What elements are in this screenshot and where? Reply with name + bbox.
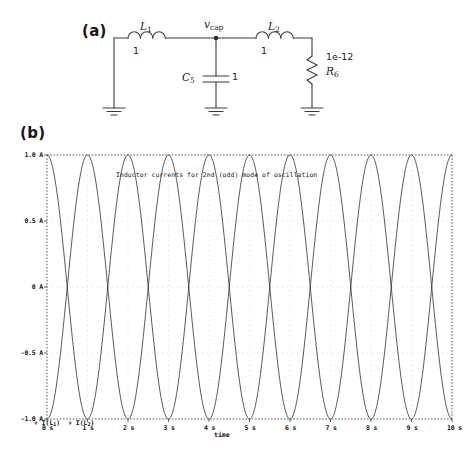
y-tick-label: 0 A [4,283,43,291]
inductor-l2-coil-3 [281,32,293,38]
legend-item-I(L1): + I(L1) [34,419,60,427]
figure-container: (a) [0,0,471,450]
capacitor-c5-subscript: 5 [190,76,195,85]
node-dot-vcap [214,36,219,41]
x-tick-label: 10 s [447,424,462,432]
inductor-l2-value: 1 [261,45,267,56]
inductor-l2-label: L2 [268,20,280,34]
y-tick-label: 0.5 A [4,217,43,225]
plot-legend: + I(L1)+ I(L2) [34,419,102,427]
plot-annotation: Inductor currents for 2nd (odd) mode of … [116,171,317,179]
waveform-plot: -1.0 A-0.5 A0 A0.5 A1.0 A 0 s1 s2 s3 s4 … [0,132,471,450]
ground-symbol-left [103,108,125,115]
legend-label: I(L [76,419,88,427]
inductor-l1-subscript: 1 [147,25,152,34]
x-tick-label: 2 s [123,424,134,432]
y-tick-label: 1.0 A [4,151,43,159]
x-tick-label: 9 s [407,424,418,432]
plot-svg [0,132,471,450]
legend-marker-icon: + [68,419,76,427]
inductor-l1-label: L1 [140,20,152,34]
x-tick-label: 5 s [245,424,256,432]
ground-symbol-right [301,108,323,115]
inductor-l2-subscript: 2 [275,25,280,34]
x-axis-label: time [214,431,230,439]
y-tick-label: -0.5 A [4,349,43,357]
capacitor-c5-label: C5 [182,71,195,85]
legend-marker-icon: + [34,419,42,427]
x-tick-label: 6 s [285,424,296,432]
node-label-vcap: vcap [204,18,223,32]
series-curve-I(L2) [47,155,452,419]
inductor-l1-value: 1 [133,45,139,56]
resistor-r6-zigzag [307,56,317,84]
legend-label-close: ) [90,419,94,427]
resistor-r6-subscript: 6 [334,70,339,79]
circuit-svg [0,0,471,130]
x-tick-label: 3 s [164,424,175,432]
resistor-r6-value: 1e-12 [326,51,353,62]
inductor-l2-coil-1 [256,32,268,38]
legend-item-I(L2): + I(L2) [68,419,94,427]
ground-symbol-center [205,108,227,115]
legend-label: I(L [42,419,54,427]
capacitor-c5-value: 1 [232,71,238,82]
circuit-schematic: L1 1 L2 1 C5 1 1e-12 R6 vcap [0,0,471,130]
plot-curves [47,155,452,419]
inductor-l1-coil-1 [128,32,140,38]
x-tick-label: 7 s [326,424,337,432]
resistor-r6-label: R6 [326,65,339,79]
legend-label-close: ) [56,419,60,427]
node-label-vcap-subscript: cap [210,23,223,32]
inductor-l1-coil-3 [153,32,165,38]
x-tick-label: 8 s [366,424,377,432]
